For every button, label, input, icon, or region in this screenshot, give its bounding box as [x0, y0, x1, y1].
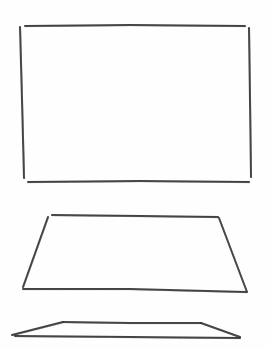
trapezoid-left-edge [23, 217, 48, 287]
flat-trapezoid-shape [12, 322, 241, 339]
rectangle-shape [20, 25, 252, 183]
sketch-canvas [0, 0, 270, 348]
flat-trapezoid-right-texture [202, 324, 241, 338]
flat-trapezoid-left-edge [12, 322, 63, 335]
sketch-drawing [0, 0, 270, 348]
trapezoid-left-texture [24, 218, 49, 288]
flat-trapezoid-left-texture [13, 323, 64, 336]
trapezoid-shape [23, 215, 248, 293]
rectangle-left-edge [20, 27, 24, 178]
trapezoid-right-texture [220, 219, 248, 293]
